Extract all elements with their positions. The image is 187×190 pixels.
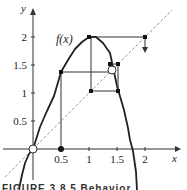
- function-curve: [19, 37, 137, 190]
- arrow-down-icon: [142, 47, 148, 53]
- figure-caption: FIGURE 3.8.5 Behavior: [2, 183, 131, 190]
- y-tick-label: 1: [22, 87, 28, 99]
- y-tick-label: 1.5: [13, 59, 27, 71]
- x-tick-label: 0.5: [54, 153, 68, 165]
- cobweb-path: [61, 37, 145, 149]
- function-label: f(x): [56, 32, 73, 46]
- x-tick-label: 2: [142, 153, 148, 165]
- fixed-point-origin: [29, 145, 37, 153]
- x-tick-label: 1.5: [110, 153, 124, 165]
- y-axis-arrow-icon: [30, 8, 36, 15]
- x-axis-label: x: [171, 152, 177, 164]
- y-tick-label: 2: [22, 31, 28, 43]
- x-tick-label: 1: [86, 153, 92, 165]
- y-tick-label: 0.5: [13, 115, 27, 127]
- y-axis-label: y: [20, 2, 26, 14]
- fixed-point-sqrt2: [108, 66, 116, 74]
- cobweb-diagram: 0.5 1 1.5 2 0.5 1 1.5 2 x y f(x): [0, 0, 187, 190]
- start-point: [58, 146, 64, 152]
